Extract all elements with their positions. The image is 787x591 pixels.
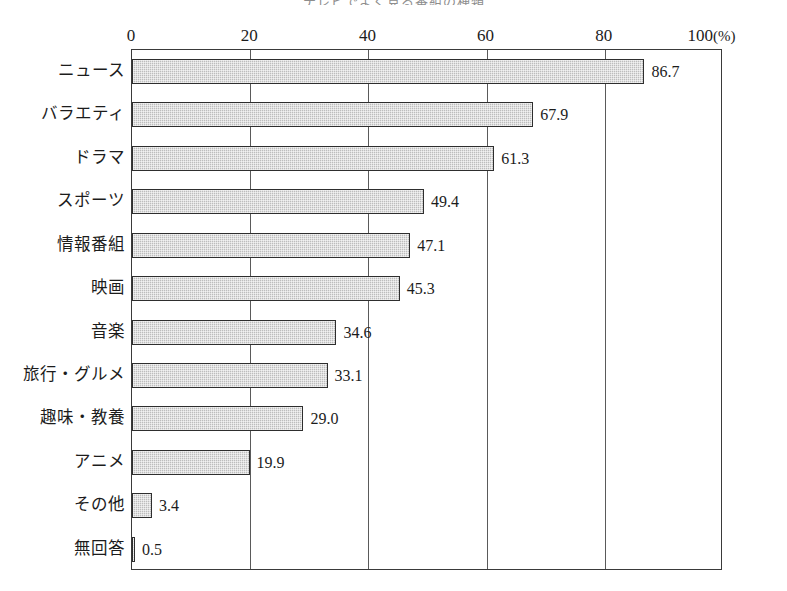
x-axis-tick-labels: 020406080100(%) <box>0 26 787 48</box>
x-axis-unit: (%) <box>713 28 736 44</box>
x-tick-value: 0 <box>127 26 136 45</box>
x-tick-label-0: 0 <box>127 26 136 46</box>
bar-value-label: 47.1 <box>417 233 445 258</box>
bar-value-label: 67.9 <box>540 102 568 127</box>
bar-row: 67.9 <box>132 93 721 136</box>
bar-value-label: 61.3 <box>501 146 529 171</box>
bar-row: 49.4 <box>132 180 721 223</box>
bar-音楽 <box>132 320 336 345</box>
bar-バラエティ <box>132 102 533 127</box>
bar-row: 45.3 <box>132 267 721 310</box>
bar-row: 34.6 <box>132 311 721 354</box>
bar-無回答 <box>132 537 135 562</box>
x-tick-label-20: 20 <box>241 26 258 46</box>
category-label-スポーツ: スポーツ <box>57 179 125 222</box>
category-label-音楽: 音楽 <box>91 310 125 353</box>
plot-area: 86.767.961.349.447.145.334.633.129.019.9… <box>131 49 722 570</box>
x-tick-value: 60 <box>477 26 494 45</box>
bar-情報番組 <box>132 233 410 258</box>
bar-スポーツ <box>132 189 424 214</box>
bar-value-label: 45.3 <box>407 276 435 301</box>
bar-value-label: 0.5 <box>142 537 162 562</box>
bar-row: 47.1 <box>132 224 721 267</box>
bar-row: 61.3 <box>132 137 721 180</box>
bar-ドラマ <box>132 146 494 171</box>
bar-映画 <box>132 276 400 301</box>
bar-row: 3.4 <box>132 484 721 527</box>
x-tick-label-100: 100(%) <box>687 26 735 46</box>
bar-value-label: 19.9 <box>257 450 285 475</box>
category-label-バラエティ: バラエティ <box>41 92 125 135</box>
x-tick-value: 100 <box>687 26 713 45</box>
bar-趣味・教養 <box>132 406 303 431</box>
chart-caption <box>0 582 787 591</box>
x-tick-label-40: 40 <box>359 26 376 46</box>
category-label-ニュース: ニュース <box>58 49 125 92</box>
chart-title: テレビでよく見る番組の種類 <box>0 0 787 5</box>
bar-row: 33.1 <box>132 354 721 397</box>
bar-旅行・グルメ <box>132 363 328 388</box>
bar-value-label: 34.6 <box>343 320 371 345</box>
bar-value-label: 49.4 <box>431 189 459 214</box>
x-tick-value: 40 <box>359 26 376 45</box>
x-tick-value: 80 <box>595 26 612 45</box>
x-tick-label-60: 60 <box>477 26 494 46</box>
bar-value-label: 86.7 <box>651 59 679 84</box>
x-tick-label-80: 80 <box>595 26 612 46</box>
y-axis-category-labels: ニュースバラエティドラマスポーツ情報番組映画音楽旅行・グルメ趣味・教養アニメその… <box>0 49 125 570</box>
bar-row: 86.7 <box>132 50 721 93</box>
bar-value-label: 33.1 <box>335 363 363 388</box>
category-label-情報番組: 情報番組 <box>57 223 125 266</box>
category-label-無回答: 無回答 <box>74 527 125 570</box>
category-label-アニメ: アニメ <box>74 440 125 483</box>
bar-value-label: 3.4 <box>159 493 179 518</box>
category-label-映画: 映画 <box>91 266 125 309</box>
category-label-ドラマ: ドラマ <box>74 136 125 179</box>
x-tick-value: 20 <box>241 26 258 45</box>
bar-value-label: 29.0 <box>310 406 338 431</box>
bar-row: 19.9 <box>132 441 721 484</box>
category-label-その他: その他 <box>74 483 125 526</box>
category-label-旅行・グルメ: 旅行・グルメ <box>23 353 125 396</box>
category-label-趣味・教養: 趣味・教養 <box>40 396 125 439</box>
bar-ニュース <box>132 59 644 84</box>
bar-row: 29.0 <box>132 397 721 440</box>
bar-その他 <box>132 493 152 518</box>
bar-row: 0.5 <box>132 528 721 571</box>
bar-アニメ <box>132 450 250 475</box>
